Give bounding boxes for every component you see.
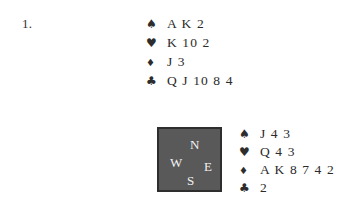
- hand-row: ♠ J 4 3: [239, 125, 335, 143]
- club-icon: ♣: [146, 72, 160, 91]
- card-holding: A K 2: [167, 14, 205, 33]
- compass-east-label: E: [204, 160, 212, 173]
- spade-icon: ♠: [146, 15, 160, 34]
- hand-row: ♠ A K 2: [146, 14, 234, 33]
- hand-row: ♦ A K 8 7 4 2: [239, 161, 335, 179]
- compass-north-label: N: [190, 138, 199, 151]
- hand-row: ♦ J 3: [146, 52, 234, 71]
- hand-row: ♣ Q J 10 8 4: [146, 71, 234, 90]
- hand-row: ♥ K 10 2: [146, 33, 234, 52]
- compass-west-label: W: [170, 156, 182, 169]
- problem-number: 1.: [22, 16, 32, 31]
- diamond-icon: ♦: [146, 53, 160, 72]
- hand-row: ♥ Q 4 3: [239, 143, 335, 161]
- card-holding: Q 4 3: [260, 143, 296, 161]
- hand-north: ♠ A K 2 ♥ K 10 2 ♦ J 3 ♣ Q J 10 8 4: [146, 14, 234, 90]
- card-holding: 2: [260, 179, 268, 197]
- card-holding: K 10 2: [167, 33, 210, 52]
- spade-icon: ♠: [239, 125, 253, 143]
- heart-icon: ♥: [239, 143, 253, 161]
- card-holding: A K 8 7 4 2: [260, 161, 335, 179]
- club-icon: ♣: [239, 179, 253, 197]
- card-holding: J 4 3: [260, 125, 291, 143]
- compass-box: N W E S: [157, 127, 222, 192]
- compass-south-label: S: [187, 174, 194, 187]
- heart-icon: ♥: [146, 34, 160, 53]
- card-holding: Q J 10 8 4: [167, 71, 234, 90]
- hand-row: ♣ 2: [239, 179, 335, 197]
- hand-east: ♠ J 4 3 ♥ Q 4 3 ♦ A K 8 7 4 2 ♣ 2: [239, 125, 335, 197]
- card-holding: J 3: [167, 52, 186, 71]
- diamond-icon: ♦: [239, 162, 253, 180]
